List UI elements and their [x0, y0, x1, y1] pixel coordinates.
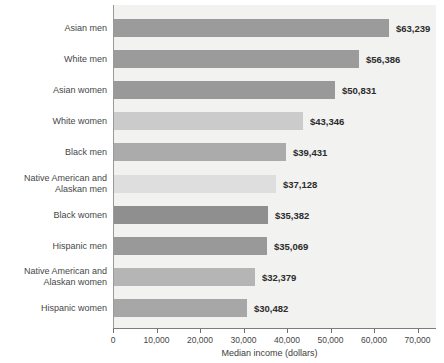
x-axis-tick-label: 70,000	[405, 335, 431, 345]
bar	[114, 237, 267, 255]
bar	[114, 19, 389, 37]
x-axis-title: Median income (dollars)	[221, 348, 317, 358]
x-axis-tick-label: 10,000	[144, 335, 170, 345]
x-axis-tick	[331, 329, 332, 333]
value-label: $50,831	[342, 84, 376, 95]
category-label: Native American andAlaskan women	[0, 266, 107, 288]
value-label: $63,239	[396, 22, 430, 33]
value-label: $37,128	[283, 178, 317, 189]
bar	[114, 206, 268, 224]
bar	[114, 175, 276, 193]
bar	[114, 112, 303, 130]
x-axis-tick	[374, 329, 375, 333]
category-label: Black men	[0, 147, 107, 158]
x-axis-line	[113, 328, 436, 329]
category-label: Hispanic women	[0, 303, 107, 314]
x-axis-tick-label: 40,000	[274, 335, 300, 345]
x-axis-tick-label: 50,000	[318, 335, 344, 345]
category-label: Asian men	[0, 22, 107, 33]
value-label: $32,379	[262, 272, 296, 283]
x-axis-tick	[200, 329, 201, 333]
median-income-bar-chart: Asian men$63,239White men$56,386Asian wo…	[0, 0, 444, 363]
x-axis-tick	[244, 329, 245, 333]
category-label: Black women	[0, 209, 107, 220]
value-label: $56,386	[366, 53, 400, 64]
bar	[114, 81, 335, 99]
x-axis-tick-label: 20,000	[187, 335, 213, 345]
value-label: $30,482	[254, 303, 288, 314]
bar	[114, 268, 255, 286]
x-axis-tick	[113, 329, 114, 333]
value-label: $35,069	[274, 240, 308, 251]
x-axis-tick	[287, 329, 288, 333]
value-label: $39,431	[293, 147, 327, 158]
value-label: $43,346	[310, 116, 344, 127]
value-label: $35,382	[275, 209, 309, 220]
x-axis-tick	[418, 329, 419, 333]
x-axis-tick	[157, 329, 158, 333]
category-label: Hispanic men	[0, 240, 107, 251]
x-axis-tick-label: 30,000	[231, 335, 257, 345]
bar	[114, 143, 286, 161]
x-axis-tick-label: 0	[111, 335, 116, 345]
bar	[114, 50, 359, 68]
category-label: Asian women	[0, 84, 107, 95]
bar	[114, 299, 247, 317]
category-label: White women	[0, 116, 107, 127]
category-label: White men	[0, 53, 107, 64]
category-label: Native American andAlaskan men	[0, 173, 107, 195]
x-axis-tick-label: 60,000	[361, 335, 387, 345]
